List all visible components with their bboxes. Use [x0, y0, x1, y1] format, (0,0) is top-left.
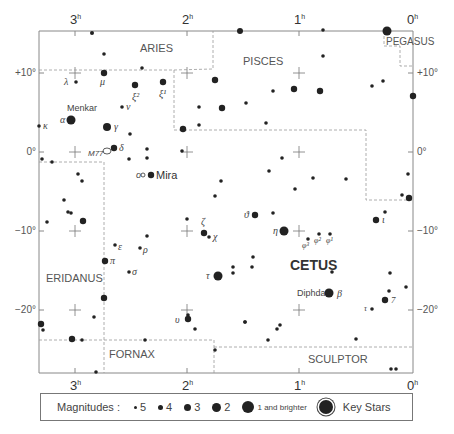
star-labels: λ μ ξ² ξ¹ ν κ α γ δ ε ρ π σ ζ χ τ υ ϑ η …	[43, 76, 396, 325]
label-eridanus: ERIDANUS	[46, 272, 103, 284]
label-mira: Mira	[156, 169, 178, 181]
dec-label-minus10-right: −10°	[417, 225, 438, 236]
label-phi3: φ³	[302, 241, 309, 250]
ra-label-0h-bottom: 0	[407, 378, 414, 393]
legend-mag5-label: 5	[140, 401, 146, 413]
magnitude-legend: Magnitudes : 5 4 3 2 1 and brighter Key …	[40, 393, 413, 421]
label-kappa: κ	[43, 120, 48, 131]
label-theta: ϑ	[244, 209, 250, 220]
mag3-dot-icon	[184, 404, 191, 411]
label-omicron: ο	[136, 170, 141, 180]
ra-label-1h: 1	[294, 12, 301, 27]
label-cetus: CETUS	[290, 257, 337, 273]
label-7: 7	[391, 295, 396, 305]
mag2-dot-icon	[212, 403, 221, 412]
label-iota: ι	[382, 214, 385, 225]
legend-mag4-label: 4	[166, 401, 172, 413]
legend-key-stars: Key Stars	[319, 400, 391, 414]
dec-label-0-right: 0°	[417, 146, 427, 157]
legend-mag4: 4	[158, 401, 172, 413]
label-beta: β	[336, 288, 342, 299]
stars	[37, 27, 416, 374]
ra-label-1h-bottom: 1	[294, 378, 301, 393]
label-epsilon: ε	[118, 241, 122, 252]
dec-label-minus10: −10°	[15, 225, 36, 236]
legend-key-label: Key Stars	[343, 401, 391, 413]
dec-label-minus20-right: −20°	[417, 304, 438, 315]
ra-label-3h: 3	[70, 12, 77, 27]
svg-text:1h: 1h	[294, 378, 305, 393]
mag1-dot-icon	[242, 401, 254, 413]
label-gamma: γ	[114, 121, 119, 132]
ra-label-2h-bottom: 2	[182, 378, 189, 393]
ra-unit: h	[414, 13, 418, 20]
ra-axis-labels: 3h 2h 1h 0h 3h 2h 1h 0h	[70, 12, 418, 393]
mag5-dot-icon	[134, 406, 137, 409]
label-phi2: φ²	[314, 236, 321, 245]
ra-unit: h	[77, 13, 81, 20]
svg-text:2h: 2h	[182, 12, 193, 27]
label-zeta: ζ	[201, 216, 206, 228]
ra-unit: h	[301, 379, 305, 386]
label-nu: ν	[126, 101, 131, 112]
legend-mag2-label: 2	[224, 401, 230, 413]
label-xi2: ξ²	[132, 91, 140, 103]
label-alpha: α	[60, 114, 66, 125]
label-xi1: ξ¹	[159, 88, 166, 100]
mira-variable-icon	[141, 173, 145, 177]
label-phi1: φ¹	[326, 236, 333, 245]
ra-label-0h: 0	[407, 12, 414, 27]
legend-mag3: 3	[184, 401, 200, 413]
ra-ticks	[39, 31, 413, 373]
label-eta: η	[273, 225, 278, 236]
galaxy-m77-icon	[103, 148, 111, 154]
legend-mag2: 2	[212, 401, 230, 413]
label-aries: ARIES	[140, 42, 173, 54]
constellation-boundaries	[39, 31, 413, 373]
svg-text:0h: 0h	[407, 378, 418, 393]
label-sigma: σ	[132, 266, 138, 277]
label-diphda: Diphda	[297, 288, 326, 298]
proper-name-labels: Menkar Mira Diphda M77 ο	[67, 103, 326, 298]
ra-unit: h	[414, 379, 418, 386]
star-chart: 3h 2h 1h 0h 3h 2h 1h 0h +10° 0° −10° −20…	[0, 0, 454, 434]
ra-unit: h	[189, 379, 193, 386]
legend-mag1: 1 and brighter	[242, 401, 306, 413]
ra-unit: h	[189, 13, 193, 20]
label-delta: δ	[119, 142, 124, 153]
label-pegasus: PEGASUS	[386, 36, 435, 47]
label-upsilon: υ	[175, 314, 180, 325]
legend-title: Magnitudes :	[57, 401, 120, 413]
mag4-dot-icon	[158, 405, 163, 410]
label-fornax: FORNAX	[109, 348, 156, 360]
svg-text:2h: 2h	[182, 378, 193, 393]
label-tau: τ	[206, 270, 210, 281]
svg-text:3h: 3h	[70, 378, 81, 393]
legend-mag5: 5	[134, 401, 146, 413]
label-lambda: λ	[63, 76, 69, 87]
legend-mag1-label: 1 and brighter	[257, 403, 306, 412]
dec-label-minus20: −20°	[15, 304, 36, 315]
svg-text:0h: 0h	[407, 12, 418, 27]
ra-unit: h	[301, 13, 305, 20]
label-menkar: Menkar	[67, 103, 97, 113]
label-m77: M77	[88, 149, 104, 158]
label-pisces: PISCES	[243, 55, 283, 67]
label-tau-sculptor: τ	[364, 304, 368, 313]
label-rho: ρ	[142, 244, 148, 255]
label-sculptor: SCULPTOR	[308, 353, 368, 365]
ra-label-2h: 2	[182, 12, 189, 27]
dec-label-0: 0°	[26, 146, 36, 157]
key-star-icon	[319, 400, 333, 414]
dec-label-plus10: +10°	[15, 67, 36, 78]
label-chi: χ	[212, 231, 218, 242]
ra-label-3h-bottom: 3	[70, 378, 77, 393]
dec-label-plus10-right: +10°	[417, 67, 438, 78]
label-pi: π	[110, 255, 116, 266]
legend-mag3-label: 3	[194, 401, 200, 413]
label-mu: μ	[99, 76, 105, 87]
ra-unit: h	[77, 379, 81, 386]
svg-text:3h: 3h	[70, 12, 81, 27]
svg-text:1h: 1h	[294, 12, 305, 27]
chart-frame	[39, 31, 413, 373]
